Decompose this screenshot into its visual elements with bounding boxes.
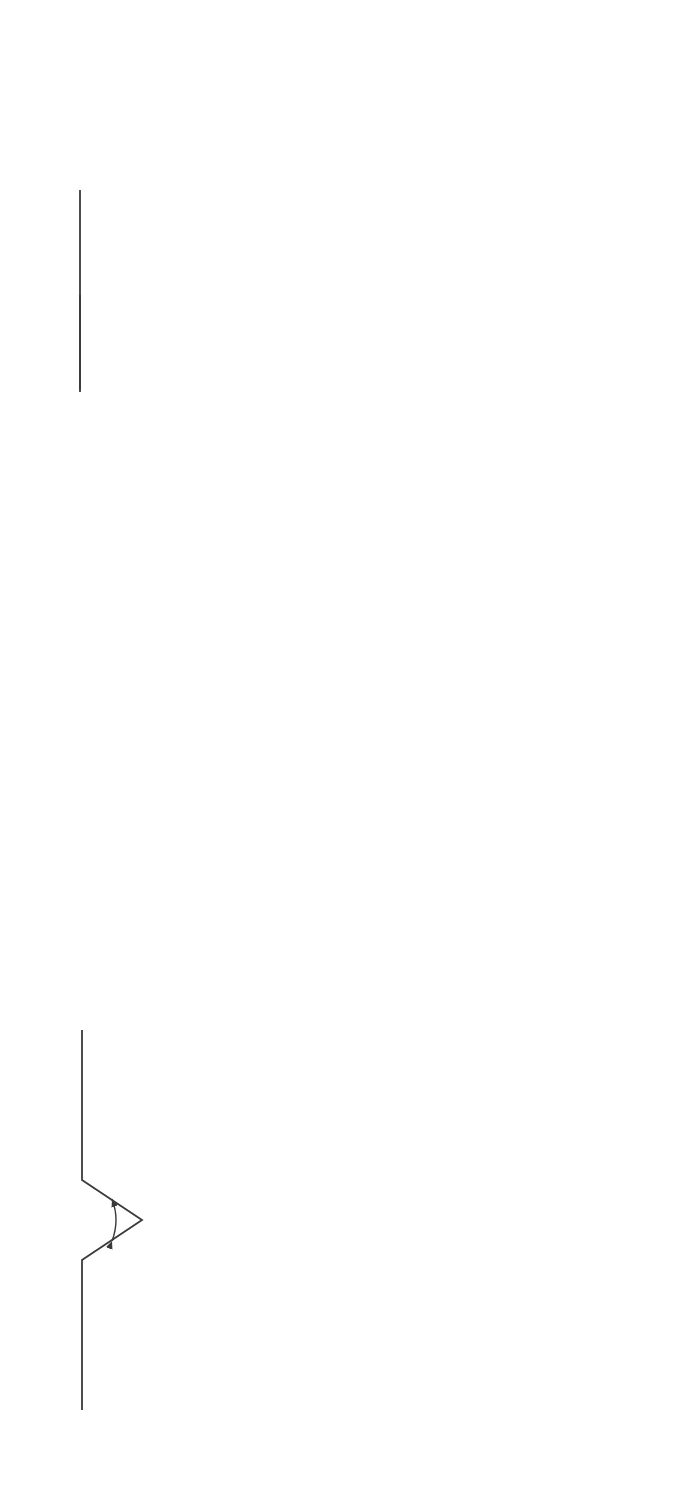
panel-a-60-v-notch <box>82 1030 142 1410</box>
weir-shapes-figure <box>0 0 678 1490</box>
